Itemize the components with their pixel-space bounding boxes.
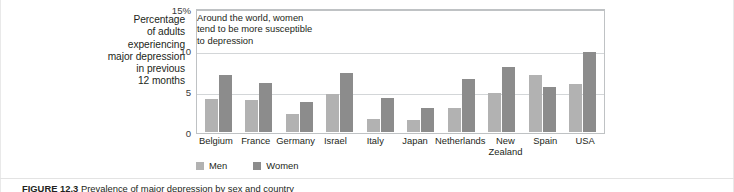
caption-divider xyxy=(0,178,734,179)
chart-annotation-line: tend to be more susceptible xyxy=(197,23,357,34)
legend-swatch-women xyxy=(253,162,261,170)
chart-annotation-line: to depression xyxy=(197,35,357,46)
bar-women-italy xyxy=(381,98,394,132)
bar-men-japan xyxy=(407,120,420,132)
bar-men-france xyxy=(245,100,258,132)
bar-women-japan xyxy=(421,108,434,132)
bar-women-spain xyxy=(543,87,556,132)
legend-item-men: Men xyxy=(196,160,227,171)
y-axis-title-line: major depression xyxy=(60,51,185,63)
legend-label-women: Women xyxy=(266,160,298,171)
y-tick-label-5: 5 xyxy=(186,87,191,98)
bar-group xyxy=(401,12,442,132)
x-axis-label-france: France xyxy=(236,136,276,157)
x-axis-label-japan: Japan xyxy=(395,136,435,157)
bar-men-netherlands xyxy=(448,108,461,132)
y-tick-label-15: 15% xyxy=(172,5,191,16)
bar-men-spain xyxy=(529,75,542,132)
y-axis-title-line: of adults xyxy=(60,26,185,38)
y-axis-title-line: Percentage xyxy=(60,14,185,26)
bar-women-france xyxy=(259,83,272,132)
bar-men-israel xyxy=(326,94,339,132)
x-axis-label-new-zealand: New Zealand xyxy=(486,136,526,157)
y-axis-title-line: in previous xyxy=(60,63,185,75)
bar-women-germany xyxy=(300,102,313,132)
bar-men-new-zealand xyxy=(488,93,501,132)
bar-group xyxy=(360,12,401,132)
bar-women-israel xyxy=(340,73,353,132)
figure-caption-text: Prevalence of major depression by sex an… xyxy=(81,183,294,192)
legend-label-men: Men xyxy=(209,160,227,171)
bar-women-new-zealand xyxy=(502,67,515,132)
page-edge-left xyxy=(0,0,1,192)
x-axis-label-usa: USA xyxy=(565,136,605,157)
y-tick-label-10: 10 xyxy=(180,45,191,56)
figure-container: Percentage of adults experiencing major … xyxy=(0,0,734,192)
legend-swatch-men xyxy=(196,162,204,170)
bar-men-usa xyxy=(569,84,582,132)
chart-legend: Men Women xyxy=(196,160,298,171)
bar-group xyxy=(563,12,604,132)
bar-men-belgium xyxy=(205,99,218,132)
y-axis-title-line: experiencing xyxy=(60,39,185,51)
legend-item-women: Women xyxy=(253,160,298,171)
bar-women-usa xyxy=(583,52,596,132)
x-axis-label-netherlands: Netherlands xyxy=(435,136,486,157)
figure-caption: FIGURE 12.3 Prevalence of major depressi… xyxy=(22,183,722,192)
bar-group xyxy=(482,12,523,132)
x-axis-labels: BelgiumFranceGermanyIsraelItalyJapanNeth… xyxy=(196,136,605,157)
y-axis-title: Percentage of adults experiencing major … xyxy=(60,14,185,88)
figure-caption-number: FIGURE 12.3 xyxy=(22,183,78,192)
bar-group xyxy=(522,12,563,132)
y-axis-title-line: 12 months xyxy=(60,75,185,87)
chart-annotation-line: Around the world, women xyxy=(197,12,357,23)
x-axis-label-germany: Germany xyxy=(276,136,316,157)
chart-annotation: Around the world, women tend to be more … xyxy=(197,12,357,46)
x-axis-label-spain: Spain xyxy=(525,136,565,157)
bar-women-belgium xyxy=(219,75,232,132)
x-axis-label-israel: Israel xyxy=(315,136,355,157)
x-axis-label-belgium: Belgium xyxy=(196,136,236,157)
bar-group xyxy=(441,12,482,132)
bar-men-italy xyxy=(367,119,380,132)
bar-men-germany xyxy=(286,114,299,132)
y-tick-label-0: 0 xyxy=(186,128,191,139)
bar-women-netherlands xyxy=(462,79,475,132)
x-axis-label-italy: Italy xyxy=(355,136,395,157)
